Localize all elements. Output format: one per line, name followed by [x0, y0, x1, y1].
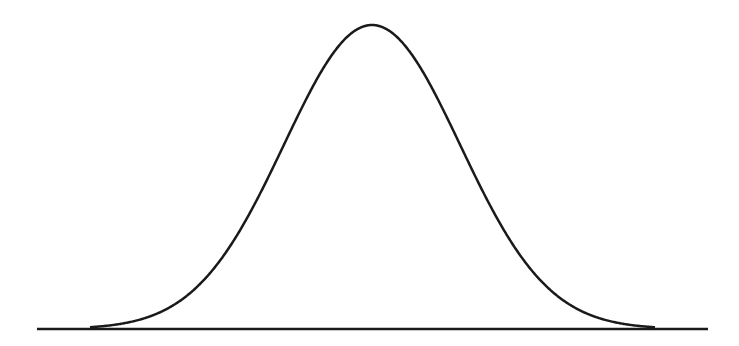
bell-curve-diagram: [0, 0, 739, 346]
bell-curve: [90, 25, 655, 327]
